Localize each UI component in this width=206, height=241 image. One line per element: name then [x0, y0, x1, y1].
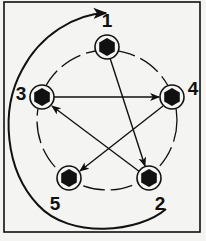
label-2: 2 — [155, 193, 166, 214]
node-3 — [30, 85, 54, 109]
label-3: 3 — [16, 83, 27, 104]
rotation-diagram: 1 2 3 4 5 — [0, 0, 206, 241]
node-1 — [95, 35, 119, 59]
node-4 — [160, 85, 184, 109]
label-1: 1 — [102, 10, 113, 31]
node-5 — [57, 166, 81, 190]
label-4: 4 — [188, 78, 199, 99]
label-5: 5 — [50, 193, 61, 214]
node-2 — [137, 166, 161, 190]
